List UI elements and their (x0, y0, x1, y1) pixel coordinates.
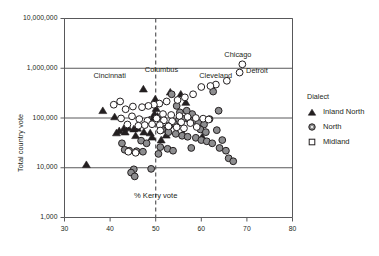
point-north (157, 144, 164, 151)
x-tick-label: 50 (136, 225, 176, 232)
x-tick-label: 80 (273, 225, 313, 232)
legend-entry-label: Inland North (323, 107, 364, 116)
point-north (223, 147, 230, 154)
point-north (202, 129, 209, 136)
point-inland-north (139, 85, 147, 92)
point-midland (132, 149, 139, 156)
point-midland (130, 103, 137, 110)
point-midland (239, 61, 246, 68)
point-north (230, 158, 237, 165)
point-north (184, 133, 191, 140)
point-north (148, 165, 155, 172)
point-midland (157, 127, 164, 134)
point-midland (129, 113, 136, 120)
point-midland (193, 124, 200, 131)
point-midland (168, 112, 175, 119)
legend-entry-label: Midland (323, 137, 350, 146)
point-midland (176, 113, 183, 120)
point-north (119, 140, 126, 147)
point-inland-north (82, 161, 90, 168)
y-tick-label: 1,000 (0, 213, 58, 220)
point-midland (145, 103, 152, 110)
point-midland (165, 123, 172, 130)
point-north (140, 148, 147, 155)
city-annotation: Cincinnati (93, 71, 125, 80)
city-annotation: Chicago (224, 50, 251, 59)
y-tick-label: 10,000 (0, 163, 58, 170)
x-tick-label: 70 (227, 225, 267, 232)
point-north (216, 145, 223, 152)
point-midland (141, 122, 148, 129)
point-midland (125, 148, 132, 155)
point-north (168, 91, 175, 98)
x-tick-label: 40 (90, 225, 130, 232)
point-inland-north (99, 107, 107, 114)
point-midland (181, 94, 188, 101)
legend-entry-label: North (323, 122, 342, 131)
point-midland (207, 83, 214, 90)
x-tick-label: 30 (45, 225, 85, 232)
point-midland (124, 121, 131, 128)
point-midland (187, 120, 194, 127)
point-midland (198, 84, 205, 91)
y-tick-label: 100,000 (0, 114, 58, 121)
y-tick-label: 1,000,000 (0, 64, 58, 71)
point-midland (149, 121, 156, 128)
point-north (172, 130, 179, 137)
point-north (131, 173, 138, 180)
point-midland (190, 91, 197, 98)
point-midland (173, 124, 180, 131)
point-north (170, 147, 177, 154)
legend-marker-midland (309, 139, 315, 145)
legend-marker-north (309, 124, 315, 130)
point-inland-north (132, 132, 140, 139)
point-north (215, 107, 222, 114)
point-midland (181, 125, 188, 132)
point-midland (118, 115, 125, 122)
point-north (155, 150, 162, 157)
point-midland (160, 111, 167, 118)
point-midland (236, 69, 243, 76)
point-midland (163, 98, 170, 105)
point-inland-north (140, 128, 148, 135)
point-north (209, 140, 216, 147)
point-midland (153, 115, 160, 122)
point-north (219, 137, 226, 144)
point-north (143, 140, 150, 147)
legend-marker-inland-north (308, 109, 315, 115)
point-midland (139, 104, 146, 111)
point-midland (192, 115, 199, 122)
point-midland (135, 122, 142, 129)
point-midland (122, 106, 129, 113)
city-annotation: Columbus (145, 65, 178, 74)
legend-title: Dialect (307, 92, 329, 101)
scatter-chart-figure: Total country vote 1,00010,000100,0001,0… (0, 0, 379, 256)
point-midland (205, 116, 212, 123)
point-north (183, 107, 190, 114)
point-north (213, 127, 220, 134)
point-midland (110, 101, 117, 108)
city-annotation: Cleveland (199, 71, 232, 80)
y-tick-label: 10,000,000 (0, 14, 58, 21)
point-midland (117, 98, 124, 105)
city-annotation: Detroit (246, 66, 268, 75)
reference-line-label: % Kerry vote (116, 191, 196, 200)
x-tick-label: 60 (181, 225, 221, 232)
point-north (188, 145, 195, 152)
point-midland (174, 97, 181, 104)
point-midland (136, 116, 143, 123)
